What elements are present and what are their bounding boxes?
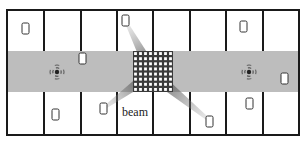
floor-plan-diagram: beam xyxy=(0,0,307,141)
ris-element xyxy=(144,67,147,70)
ris-panel xyxy=(133,51,173,92)
ris-element xyxy=(139,78,142,81)
ris-element xyxy=(149,52,152,55)
ris-element xyxy=(139,83,142,86)
ris-element xyxy=(154,67,157,70)
ris-element xyxy=(154,88,157,91)
ris-element xyxy=(154,62,157,65)
ris-element xyxy=(159,83,162,86)
ris-element xyxy=(149,57,152,60)
ris-element xyxy=(169,57,172,60)
ris-element xyxy=(134,57,137,60)
ris-element xyxy=(139,67,142,70)
ris-element xyxy=(159,52,162,55)
mobile-device-icon xyxy=(79,53,86,64)
ris-element xyxy=(159,62,162,65)
ris-element xyxy=(134,83,137,86)
mobile-device-icon xyxy=(246,98,253,109)
ris-element xyxy=(169,78,172,81)
ris-element xyxy=(159,57,162,60)
ris-element xyxy=(144,52,147,55)
ris-element xyxy=(169,62,172,65)
ris-element xyxy=(164,57,167,60)
ris-element xyxy=(154,78,157,81)
mobile-device-icon xyxy=(240,21,247,32)
ris-element xyxy=(149,78,152,81)
ris-element xyxy=(144,62,147,65)
mobile-device-icon xyxy=(52,109,59,120)
ris-element xyxy=(149,83,152,86)
ris-element xyxy=(159,88,162,91)
ris-element xyxy=(144,83,147,86)
ris-element xyxy=(139,88,142,91)
ris-element xyxy=(164,73,167,76)
ris-element xyxy=(164,67,167,70)
ris-element xyxy=(159,67,162,70)
ris-element xyxy=(144,78,147,81)
mobile-device-icon xyxy=(122,15,129,26)
ris-element xyxy=(149,73,152,76)
ris-element xyxy=(149,62,152,65)
ris-element xyxy=(134,78,137,81)
ris-element xyxy=(164,88,167,91)
ris-element xyxy=(134,52,137,55)
ris-element xyxy=(144,88,147,91)
ris-element xyxy=(159,73,162,76)
ris-element xyxy=(164,52,167,55)
ris-element xyxy=(134,67,137,70)
ris-element xyxy=(144,57,147,60)
ris-element xyxy=(139,57,142,60)
ris-element xyxy=(154,73,157,76)
ris-element xyxy=(169,67,172,70)
ris-element xyxy=(154,57,157,60)
ris-element xyxy=(159,78,162,81)
ris-element xyxy=(144,73,147,76)
ris-element xyxy=(169,83,172,86)
mobile-device-icon xyxy=(100,103,107,114)
ris-element xyxy=(164,78,167,81)
ris-element xyxy=(164,62,167,65)
ris-element xyxy=(139,73,142,76)
beam-label: beam xyxy=(122,105,149,119)
ris-element xyxy=(154,83,157,86)
ris-element xyxy=(169,52,172,55)
ris-element xyxy=(154,52,157,55)
mobile-device-icon xyxy=(206,116,213,127)
ris-element xyxy=(164,83,167,86)
ris-element xyxy=(149,67,152,70)
ris-element xyxy=(134,88,137,91)
mobile-device-icon xyxy=(22,23,29,34)
ris-element xyxy=(139,52,142,55)
ris-element xyxy=(169,73,172,76)
ris-element xyxy=(134,73,137,76)
ris-panel-backing xyxy=(133,51,173,92)
ris-element xyxy=(139,62,142,65)
mobile-device-icon xyxy=(281,73,288,84)
ris-element xyxy=(134,62,137,65)
ris-element xyxy=(149,88,152,91)
ris-element xyxy=(169,88,172,91)
